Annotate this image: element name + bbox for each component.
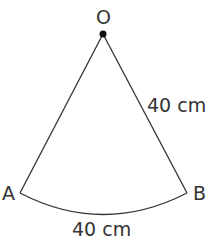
- center-point-dot: [100, 31, 107, 38]
- arc-length-label: 40 cm: [72, 220, 131, 239]
- radius-oa: [20, 34, 103, 193]
- arc-ab: [20, 193, 187, 215]
- label-a: A: [2, 184, 15, 203]
- label-b: B: [193, 184, 206, 203]
- sector-diagram: [0, 0, 220, 241]
- label-o: O: [96, 8, 111, 27]
- radius-length-label: 40 cm: [147, 96, 206, 115]
